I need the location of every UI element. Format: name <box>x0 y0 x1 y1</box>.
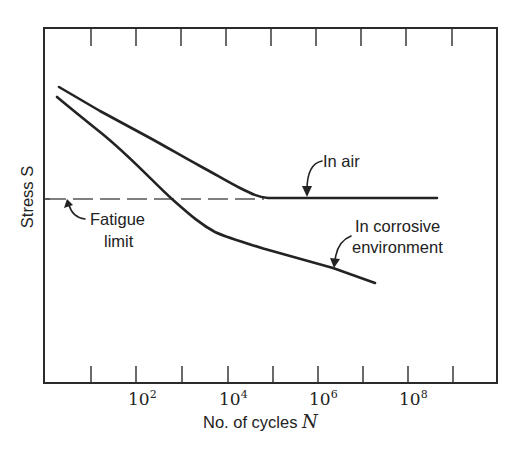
x-axis-title: No. of cycles N <box>203 411 319 432</box>
curve-in-air <box>59 87 437 198</box>
plot-frame <box>44 28 497 383</box>
x-tick-label-1e2: 102 <box>128 388 157 409</box>
top-ticks <box>91 28 452 46</box>
label-corrosive-line2: environment <box>352 238 443 256</box>
x-tick-labels: 102 104 106 108 <box>128 388 428 409</box>
label-in-air: In air <box>323 152 360 170</box>
arrowhead-in-air-icon <box>302 186 312 197</box>
label-corrosive-line1: In corrosive <box>355 217 440 235</box>
x-tick-label-1e4: 104 <box>219 388 248 409</box>
bottom-ticks <box>91 366 453 383</box>
label-fatigue-line2: limit <box>104 232 134 250</box>
arrow-corrosive-icon <box>335 236 351 261</box>
x-tick-label-1e6: 106 <box>309 388 338 409</box>
label-fatigue-line1: Fatigue <box>90 210 145 228</box>
arrowhead-fatigue-icon <box>64 199 73 208</box>
y-axis-title: Stress S <box>18 166 36 228</box>
arrow-fatigue-icon <box>69 205 85 219</box>
x-tick-label-1e8: 108 <box>399 388 428 409</box>
curve-corrosive <box>57 97 375 283</box>
sn-fatigue-chart: 102 104 106 108 No. of cycles N Stress S… <box>0 0 521 454</box>
arrow-in-air-icon <box>307 161 322 190</box>
